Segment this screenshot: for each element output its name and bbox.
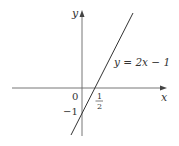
x-intercept-fraction: 1 2 [96, 92, 104, 111]
y-intercept-label: −1 [63, 106, 78, 117]
y-axis-label: y [71, 7, 79, 20]
fraction-numerator: 1 [97, 92, 102, 101]
x-axis-label: x [161, 91, 168, 104]
line-graph-diagram: y x 0 −1 1 2 y = 2x − 1 [0, 0, 179, 146]
x-axis [12, 86, 167, 91]
graph-line [71, 13, 133, 135]
x-axis-arrow-icon [160, 86, 167, 91]
origin-label: 0 [72, 91, 78, 102]
fraction-denominator: 2 [97, 102, 102, 111]
y-axis-arrow-icon [80, 10, 85, 17]
equation-label: y = 2x − 1 [113, 56, 170, 68]
